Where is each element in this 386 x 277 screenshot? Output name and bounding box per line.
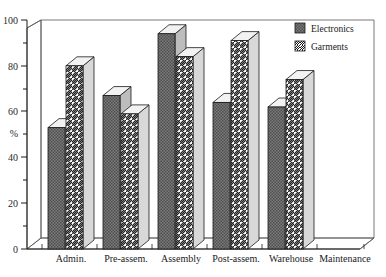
legend-entry-garments[interactable]: Garments <box>295 41 348 52</box>
bar-front-face <box>121 114 138 249</box>
bar-side-face <box>193 48 204 249</box>
bar-side-face <box>248 32 259 249</box>
x-label-warehouse: Warehouse <box>269 253 314 264</box>
y-tick-40: 40 <box>8 152 18 163</box>
y-tick-80: 80 <box>8 61 18 72</box>
bar-front-face <box>103 96 120 249</box>
bar-front-face <box>176 57 193 249</box>
x-label-pre-assem: Pre-assem. <box>104 253 148 264</box>
y-tick-0: 0 <box>13 244 18 255</box>
legend-swatch-garments <box>295 41 305 51</box>
bar-chart: 100 80 60 40 20 0 % Admin. Pre-assem. As… <box>0 0 386 277</box>
legend-label-garments: Garments <box>311 42 348 52</box>
bar-assembly-garments <box>176 48 204 249</box>
x-label-admin: Admin. <box>56 253 86 264</box>
bar-front-face <box>158 34 175 249</box>
bar-side-face <box>83 57 94 249</box>
chart-svg: 100 80 60 40 20 0 % Admin. Pre-assem. As… <box>0 0 386 277</box>
bar-preassem-garments <box>121 105 149 249</box>
bar-side-face <box>138 105 149 249</box>
y-tick-60: 60 <box>8 106 18 117</box>
x-label-assembly: Assembly <box>161 253 201 264</box>
bar-front-face <box>213 102 230 249</box>
legend-label-electronics: Electronics <box>311 24 354 34</box>
bar-admin-garments <box>66 57 94 249</box>
bar-postassem-garments <box>231 32 259 249</box>
bar-front-face <box>268 107 285 249</box>
bar-warehouse-garments <box>286 71 314 249</box>
x-label-maintenance: Maintenance <box>319 253 371 264</box>
bar-side-face <box>303 71 314 249</box>
bar-front-face <box>231 41 248 249</box>
x-label-post-assem: Post-assem. <box>212 253 260 264</box>
y-tick-100: 100 <box>3 15 18 26</box>
y-tick-20: 20 <box>8 198 18 209</box>
legend-entry-electronics[interactable]: Electronics <box>295 23 354 34</box>
bar-front-face <box>286 80 303 249</box>
bar-front-face <box>66 66 83 249</box>
y-axis-label-percent: % <box>10 128 18 139</box>
bar-front-face <box>48 128 65 249</box>
legend-swatch-electronics <box>295 23 305 33</box>
